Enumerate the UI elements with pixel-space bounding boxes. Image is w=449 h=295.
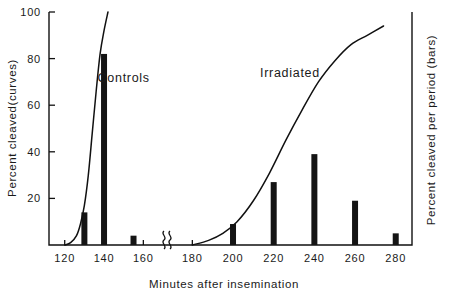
x-tick-label: 280	[385, 252, 406, 264]
y-tick-label: 40	[27, 146, 41, 158]
y-axis-title: Percent cleaved(curves)	[6, 59, 18, 197]
axis-break-squiggle	[169, 231, 171, 249]
x-tick-label: 220	[263, 252, 284, 264]
x-tick-label: 180	[182, 252, 203, 264]
x-tick-label: 200	[223, 252, 244, 264]
series-label-controls: Controls	[98, 71, 150, 85]
line-series	[65, 12, 384, 245]
y-tick-label: 100	[20, 6, 41, 18]
x-axis-title: Minutes after insemination	[149, 278, 299, 290]
series-annotations: ControlsIrradiated	[98, 66, 320, 85]
bar	[393, 233, 399, 245]
bar	[352, 201, 358, 245]
chart-figure: 12014016018020022024026028020406080100 C…	[0, 0, 449, 295]
y-tick-label: 20	[27, 192, 41, 204]
y-tick-label: 80	[27, 53, 41, 65]
x-tick-label: 120	[54, 252, 75, 264]
x-tick-label: 240	[304, 252, 325, 264]
bar	[131, 236, 137, 245]
bar	[311, 154, 317, 245]
x-tick-label: 260	[345, 252, 366, 264]
tick-labels: 12014016018020022024026028020406080100	[20, 6, 406, 264]
y-axis-title-right: Percent cleaved per period (bars)	[425, 35, 437, 225]
axis-break-squiggle	[163, 231, 165, 249]
x-tick-label: 160	[133, 252, 154, 264]
bar	[271, 182, 277, 245]
y-tick-label: 60	[27, 99, 41, 111]
x-tick-label: 140	[94, 252, 115, 264]
series-label-irradiated: Irradiated	[260, 66, 320, 80]
cleavage-chart: 12014016018020022024026028020406080100 C…	[0, 0, 449, 295]
